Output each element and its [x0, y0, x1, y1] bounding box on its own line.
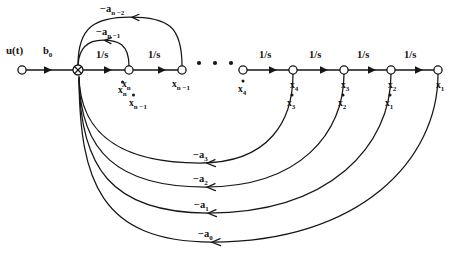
ellipsis-dot-3	[229, 61, 233, 65]
node-x2[interactable]	[387, 66, 395, 74]
overdot-x1	[389, 94, 392, 97]
signal-flow-graph-diagram: u(t) b0 1/s 1/s 1/s 1/s 1/s 1/s xn xn −1…	[0, 0, 454, 261]
ellipsis-dot-1	[197, 61, 201, 65]
node-x3[interactable]	[340, 66, 348, 74]
overdot-x2	[342, 94, 345, 97]
label-gain-4: 1/s	[309, 49, 321, 60]
arrowhead-int-1	[104, 66, 112, 74]
svg-text:x4: x4	[238, 84, 247, 97]
label-derivative-x3: x3	[287, 94, 296, 111]
label-derivative-x1: x1	[385, 94, 394, 111]
label-gain-6: 1/s	[404, 49, 416, 60]
label-feedback-a2: −a2	[193, 173, 208, 187]
label-gain-2: 1/s	[148, 49, 160, 60]
svg-text:x2: x2	[338, 98, 347, 111]
node-dx4[interactable]	[239, 66, 247, 74]
label-input-source: u(t)	[6, 44, 23, 57]
label-feedback-a-n-minus-1: −an −1	[96, 26, 121, 40]
arrowhead-int-3	[269, 66, 277, 74]
overdot-x4	[242, 80, 245, 83]
arrowhead-int-5	[368, 66, 376, 74]
label-feedback-a3: −a3	[193, 149, 208, 163]
label-derivative-x2: x2	[338, 94, 347, 111]
label-gain-3: 1/s	[259, 49, 271, 60]
arrowhead-int-2	[158, 66, 166, 74]
node-input-source[interactable]	[18, 66, 26, 74]
overdot-xn-minus-1	[132, 94, 135, 97]
diagram-canvas: u(t) b0 1/s 1/s 1/s 1/s 1/s 1/s xn xn −1…	[0, 0, 454, 261]
arrowhead-int-6	[415, 66, 423, 74]
label-derivative-xn-minus-1: xn −1	[129, 94, 147, 111]
arrowhead-b0	[44, 66, 52, 74]
label-input-gain: b0	[43, 45, 53, 59]
label-gain-1: 1/s	[96, 49, 108, 60]
labels-group: u(t) b0 1/s 1/s 1/s 1/s 1/s 1/s xn xn −1…	[6, 3, 445, 242]
node-x4[interactable]	[289, 66, 297, 74]
label-derivative-x4: x4	[238, 80, 247, 97]
ellipsis-dots	[197, 61, 233, 65]
upper-feedback-arcs	[78, 14, 182, 66]
node-xn[interactable]	[125, 66, 133, 74]
label-node-xn-minus-1: xn −1	[172, 79, 190, 92]
arrowhead-int-4	[320, 66, 328, 74]
node-x1[interactable]	[434, 66, 442, 74]
label-gain-5: 1/s	[357, 49, 369, 60]
label-feedback-a0: −a0	[198, 228, 213, 242]
label-feedback-a1: −a1	[194, 199, 209, 213]
label-feedback-a-n-minus-2: −an −2	[100, 3, 125, 17]
node-summing-junction[interactable]	[73, 65, 83, 75]
label-node-x4: x4	[290, 80, 299, 93]
node-xn-minus-1[interactable]	[178, 66, 186, 74]
overdot-xn	[121, 81, 124, 84]
ellipsis-dot-2	[213, 61, 217, 65]
svg-text:xn −1: xn −1	[129, 98, 147, 111]
overdot-x3	[291, 94, 294, 97]
